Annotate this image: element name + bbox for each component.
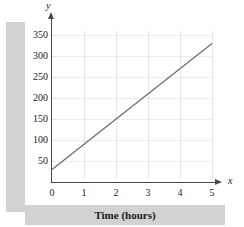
y-tick-label: 250 [24,72,48,82]
gridline-horizontal [52,140,212,142]
x-tick-label: 0 [44,187,60,198]
x-axis-tick-labels: 012345 [52,187,222,201]
x-axis-variable-label: x [228,175,232,186]
y-axis-line [51,18,52,183]
y-tick-label: 200 [24,93,48,103]
x-axis-arrow-icon [215,179,222,185]
y-tick-label: 350 [24,30,48,40]
y-tick-label: 50 [24,156,48,166]
y-tick-label: 300 [24,51,48,61]
gridline-vertical [180,31,181,178]
x-axis-line [51,182,217,183]
x-tick-label: 3 [140,187,156,198]
gridline-vertical [212,31,213,178]
y-tick-label: 100 [24,135,48,145]
gridline-horizontal [52,56,212,58]
gridline-vertical [84,31,85,178]
plot-area [52,31,212,178]
x-tick-label: 1 [76,187,92,198]
x-tick-label: 2 [108,187,124,198]
gridline-vertical [116,31,117,178]
x-tick-label: 4 [172,187,188,198]
gridline-horizontal [52,77,212,79]
y-tick-label: 150 [24,114,48,124]
gridline-horizontal [52,161,212,163]
chart-figure: Distance (miles) Time (hours) y x 501001… [0,0,244,227]
x-axis-title: Time (hours) [25,205,225,225]
x-tick-label: 5 [204,187,220,198]
gridline-vertical [148,31,149,178]
y-axis-arrow-icon [48,12,54,19]
gridline-horizontal [52,35,212,37]
gridline-horizontal [52,98,212,100]
gridline-horizontal [52,119,212,121]
